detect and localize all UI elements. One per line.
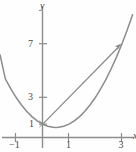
secant-line <box>44 47 120 124</box>
y-tick-label-1: 1 <box>29 119 34 129</box>
y-tick-label-7: 7 <box>28 39 33 49</box>
y-tick-label-3: 3 <box>28 92 33 102</box>
x-axis-label: x <box>133 131 136 141</box>
coordinate-plot <box>0 0 136 152</box>
graph-figure: y 7 3 1 −1 1 3 x <box>0 0 136 152</box>
x-tick-label-3: 3 <box>119 140 124 150</box>
y-axis-label: y <box>40 1 44 11</box>
x-tick-label--1: −1 <box>9 140 20 150</box>
x-tick-label-1: 1 <box>66 140 71 150</box>
parabola-curve <box>0 15 133 128</box>
